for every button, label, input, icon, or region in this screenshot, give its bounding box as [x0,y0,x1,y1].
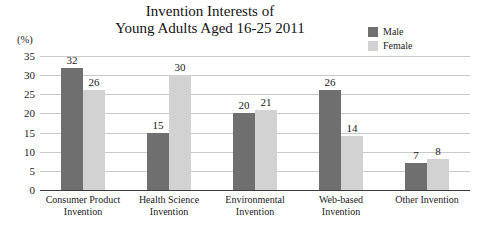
bar-female: 30 [169,75,191,190]
bar-value-label: 32 [67,55,78,66]
y-axis-tick-label: 5 [30,165,36,176]
legend-swatch-female [368,41,378,51]
bar-value-label: 26 [89,77,100,88]
chart-title-line-2: Young Adults Aged 16-25 2011 [60,20,360,37]
bar-male: 7 [405,163,427,190]
bar-value-label: 21 [261,97,272,108]
legend-item-male: Male [368,25,474,38]
bar-female: 14 [341,136,363,190]
category-label-line: Health Science [126,194,212,206]
y-axis-tick-label: 30 [24,70,35,81]
x-axis-category-labels: Consumer ProductInventionHealth ScienceI… [40,194,470,228]
y-axis-tick-label: 15 [24,127,35,138]
bar-male: 32 [61,68,83,191]
bar-chart: Invention Interests of Young Adults Aged… [0,0,482,232]
category-label-line: Other Invention [384,194,470,206]
bar-value-label: 26 [325,77,336,88]
chart-title-line-1: Invention Interests of [60,3,360,20]
x-axis-category-label: Web-basedInvention [298,194,384,217]
bar-group: 78 [384,56,470,190]
category-label-line: Invention [40,206,126,218]
legend-swatch-male [368,27,378,37]
category-label-line: Invention [212,206,298,218]
y-axis-tick-label: 20 [24,108,35,119]
x-axis-category-label: Consumer ProductInvention [40,194,126,217]
x-axis-category-label: Other Invention [384,194,470,206]
bar-group-bars: 2021 [212,56,298,190]
bar-male: 20 [233,113,255,190]
category-label-line: Web-based [298,194,384,206]
category-label-line: Environmental [212,194,298,206]
legend-label-female: Female [383,40,412,51]
x-axis-baseline: 0 [40,190,470,191]
legend-label-male: Male [383,26,404,37]
bar-female: 26 [83,90,105,190]
legend-item-female: Female [368,39,474,52]
bar-group: 2614 [298,56,384,190]
bar-value-label: 7 [413,150,419,161]
category-label-line: Invention [298,206,384,218]
y-axis-tick-label: 25 [24,89,35,100]
bar-value-label: 30 [175,62,186,73]
bar-group: 3226 [40,56,126,190]
bar-group-bars: 1530 [126,56,212,190]
bar-group-bars: 3226 [40,56,126,190]
chart-legend: Male Female [368,25,474,53]
x-axis-category-label: EnvironmentalInvention [212,194,298,217]
y-axis-tick-label: 35 [24,51,35,62]
bar-value-label: 15 [153,120,164,131]
bar-value-label: 8 [435,146,441,157]
bar-group-bars: 2614 [298,56,384,190]
category-label-line: Consumer Product [40,194,126,206]
chart-title: Invention Interests of Young Adults Aged… [60,3,360,37]
y-axis-tick-label: 0 [30,185,36,196]
x-axis-category-label: Health ScienceInvention [126,194,212,217]
bar-male: 26 [319,90,341,190]
bar-female: 8 [427,159,449,190]
category-label-line: Invention [126,206,212,218]
bar-group: 2021 [212,56,298,190]
plot-area: 35302520151050322615302021261478 [40,56,470,190]
y-axis-tick-label: 10 [24,146,35,157]
bar-value-label: 14 [347,123,358,134]
bar-group: 1530 [126,56,212,190]
y-axis-unit-label: (%) [17,34,33,45]
bar-female: 21 [255,110,277,190]
bar-value-label: 20 [239,100,250,111]
bar-group-bars: 78 [384,56,470,190]
bar-male: 15 [147,133,169,190]
